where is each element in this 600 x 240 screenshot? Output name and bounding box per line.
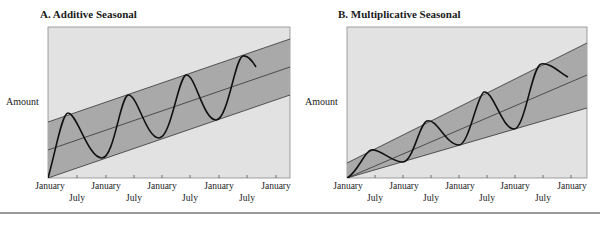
panel-a-xlabel-january-1: January: [35, 181, 65, 191]
panel-a-xlabel-july-4: July: [239, 193, 255, 203]
panel-a-xlabel-january-4: January: [204, 181, 234, 191]
panel-a-xlabel-july-3: July: [182, 193, 198, 203]
panel-b-xlabel-july-1: July: [367, 193, 383, 203]
panel-a-xlabel-july-2: July: [126, 193, 142, 203]
panel-b-xlabel-july-3: July: [479, 193, 495, 203]
panel-b-xlabel-january-3: January: [445, 181, 475, 191]
panel-a-plot: [48, 27, 290, 178]
panel-b-xlabel-january-2: January: [389, 181, 419, 191]
panel-a-xlabel-january-5: January: [261, 181, 291, 191]
panel-b-xlabel-january-4: January: [500, 181, 530, 191]
panel-a-xlabel-january-3: January: [147, 181, 177, 191]
panel-a-xlabel-january-2: January: [91, 181, 121, 191]
panel-a-xlabel-july-1: July: [69, 193, 85, 203]
panel-b-xlabel-july-4: July: [535, 193, 551, 203]
bottom-divider: [0, 212, 600, 214]
panel-b-xlabel-july-2: July: [423, 193, 439, 203]
panel-b-plot: [347, 27, 587, 178]
panel-b-xlabel-january-1: January: [333, 181, 363, 191]
panel-b-xlabel-january-5: January: [557, 181, 587, 191]
